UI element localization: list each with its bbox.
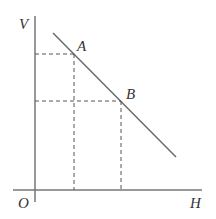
diagram-canvas <box>0 0 216 219</box>
point-b-label: B <box>126 87 135 102</box>
point-a-label: A <box>77 39 86 54</box>
y-axis-label: V <box>19 17 28 32</box>
line-ab <box>53 33 176 157</box>
origin-label: O <box>18 196 29 211</box>
x-axis-label: H <box>190 196 201 211</box>
